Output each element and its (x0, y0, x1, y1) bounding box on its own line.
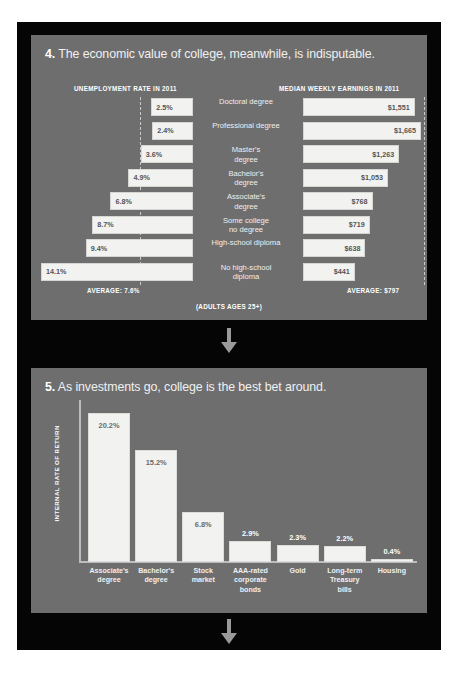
investment-bar (229, 541, 271, 562)
table-row: 14.1%No high-schooldiploma$441 (31, 262, 427, 286)
panel-5-category-labels: Associate'sdegreeBachelor'sdegreeStockma… (86, 567, 416, 609)
earnings-average-label: AVERAGE: $797 (347, 287, 399, 294)
earnings-bar: $719 (303, 216, 370, 234)
investment-category-label: Associate'sdegree (83, 567, 135, 586)
down-arrow-icon-1 (218, 328, 240, 354)
earnings-bar-track: $719 (303, 216, 421, 234)
table-row: 9.4%High-school diploma$638 (31, 238, 427, 262)
panel-4-title: 4. The economic value of college, meanwh… (45, 47, 375, 61)
unemployment-bar: 2.4% (152, 122, 193, 140)
unemployment-value-label: 9.4% (91, 244, 107, 253)
earnings-value-label: $1,551 (388, 103, 410, 112)
unemployment-bar: 14.1% (41, 263, 193, 281)
investment-category-label: AAA-ratedcorporatebonds (224, 567, 276, 595)
unemployment-bar: 6.8% (110, 192, 193, 210)
panel-5-bars: 20.2%15.2%6.8%2.9%2.3%2.2%0.4% (86, 400, 416, 562)
table-row: 3.6%Master'sdegree$1,263 (31, 144, 427, 168)
table-row: 8.7%Some collegeno degree$719 (31, 215, 427, 239)
investment-value-label: 2.3% (275, 533, 321, 542)
unemployment-bar: 8.7% (92, 216, 193, 234)
unemployment-column-header: UNEMPLOYMENT RATE IN 2011 (74, 85, 177, 92)
investment-value-label: 0.4% (369, 547, 415, 556)
earnings-bar-track: $441 (303, 263, 421, 281)
unemployment-bar-track: 2.4% (41, 122, 193, 140)
unemployment-value-label: 6.8% (115, 197, 131, 206)
investment-category-label: Gold (272, 567, 324, 576)
unemployment-bar-track: 6.8% (41, 192, 193, 210)
education-level-label: Some collegeno degree (196, 216, 296, 235)
infographic-page: 4. The economic value of college, meanwh… (0, 0, 458, 674)
table-row: 2.4%Professional degree$1,665 (31, 121, 427, 145)
education-level-label: Doctoral degree (196, 97, 296, 107)
earnings-value-label: $1,053 (361, 173, 383, 182)
earnings-bar-track: $1,665 (303, 122, 421, 140)
investment-bar (88, 413, 130, 562)
panel-5: 5. As investments go, college is the bes… (31, 368, 427, 613)
panel-5-title-text: As investments go, college is the best b… (58, 380, 326, 394)
earnings-bar-track: $1,551 (303, 98, 421, 116)
investment-value-label: 2.2% (322, 534, 368, 543)
panel-4-footnote: (ADULTS AGES 25+) (31, 303, 427, 310)
investment-value-label: 15.2% (133, 458, 179, 467)
education-level-label: Associate'sdegree (196, 192, 296, 211)
unemployment-bar-track: 4.9% (41, 169, 193, 187)
unemployment-bar-track: 8.7% (41, 216, 193, 234)
investment-bar (324, 546, 366, 562)
table-row: 4.9%Bachelor'sdegree$1,053 (31, 168, 427, 192)
earnings-bar: $1,263 (303, 145, 399, 163)
unemployment-bar: 3.6% (141, 145, 193, 163)
unemployment-bar-track: 2.5% (41, 98, 193, 116)
unemployment-value-label: 3.6% (146, 150, 162, 159)
investment-value-label: 20.2% (86, 421, 132, 430)
earnings-bar-track: $768 (303, 192, 421, 210)
earnings-bar: $768 (303, 192, 373, 210)
unemployment-bar: 4.9% (128, 169, 193, 187)
unemployment-bar: 9.4% (86, 239, 193, 257)
investment-bar (371, 559, 413, 562)
earnings-column-header: MEDIAN WEEKLY EARNINGS IN 2011 (279, 85, 399, 92)
earnings-bar: $1,551 (303, 98, 415, 116)
panel-5-title: 5. As investments go, college is the bes… (45, 380, 326, 394)
earnings-bar: $441 (303, 263, 355, 281)
earnings-value-label: $1,665 (394, 126, 416, 135)
education-level-label: High-school diploma (196, 238, 296, 248)
unemployment-bar-track: 9.4% (41, 239, 193, 257)
panel-4-number: 4. (45, 47, 55, 61)
education-level-label: Master'sdegree (196, 145, 296, 164)
earnings-value-label: $719 (349, 220, 365, 229)
y-axis-line (79, 400, 81, 562)
table-row: 6.8%Associate'sdegree$768 (31, 191, 427, 215)
earnings-bar-track: $1,263 (303, 145, 421, 163)
investment-category-label: Housing (366, 567, 418, 576)
earnings-value-label: $441 (334, 267, 350, 276)
arrow-head (221, 342, 237, 353)
earnings-bar: $638 (303, 239, 365, 257)
education-level-label: Bachelor'sdegree (196, 169, 296, 188)
earnings-bar: $1,665 (303, 122, 421, 140)
unemployment-bar-track: 3.6% (41, 145, 193, 163)
earnings-value-label: $768 (352, 197, 368, 206)
arrow-head (221, 633, 237, 644)
education-level-label: No high-schooldiploma (196, 263, 296, 282)
investment-category-label: Stockmarket (177, 567, 229, 586)
earnings-bar: $1,053 (303, 169, 388, 187)
investment-category-label: Bachelor'sdegree (130, 567, 182, 586)
unemployment-bar-track: 14.1% (41, 263, 193, 281)
unemployment-value-label: 4.9% (133, 173, 149, 182)
panel-5-number: 5. (45, 380, 55, 394)
internal-rate-of-return-axis-label: INTERNAL RATE OF RETURN (53, 432, 60, 522)
unemployment-average-label: AVERAGE: 7.6% (87, 287, 140, 294)
investment-value-label: 2.9% (227, 529, 273, 538)
unemployment-value-label: 2.5% (156, 103, 172, 112)
investment-bar (277, 545, 319, 562)
down-arrow-icon-2 (218, 619, 240, 645)
earnings-value-label: $1,263 (372, 150, 394, 159)
table-row: 2.5%Doctoral degree$1,551 (31, 97, 427, 121)
unemployment-value-label: 8.7% (97, 220, 113, 229)
panel-4-title-text: The economic value of college, meanwhile… (58, 47, 375, 61)
education-level-label: Professional degree (196, 121, 296, 131)
panel-4: 4. The economic value of college, meanwh… (31, 35, 427, 320)
investment-category-label: Long-termTreasurybills (319, 567, 371, 595)
unemployment-bar: 2.5% (151, 98, 193, 116)
earnings-bar-track: $1,053 (303, 169, 421, 187)
